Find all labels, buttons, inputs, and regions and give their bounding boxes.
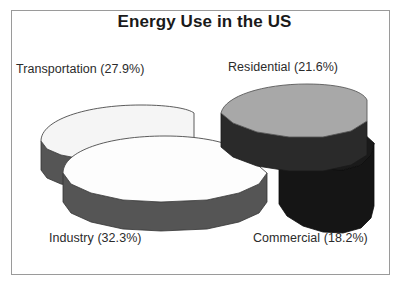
page-title: Energy Use in the US [0,12,409,32]
pie-label-industry: Industry (32.3%) [49,231,142,245]
pie-label-transportation: Transportation (27.9%) [16,62,144,76]
pie-slice-residential [221,84,367,171]
pie-label-commercial: Commercial (18.2%) [253,231,368,245]
pie-label-residential: Residential (21.6%) [228,60,338,74]
